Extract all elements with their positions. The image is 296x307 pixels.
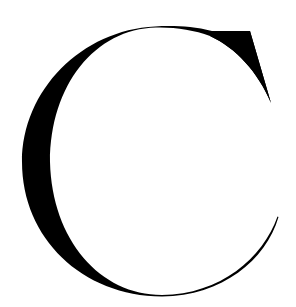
letter-c-canvas: C	[0, 0, 296, 307]
letter-c-glyph	[0, 0, 296, 307]
